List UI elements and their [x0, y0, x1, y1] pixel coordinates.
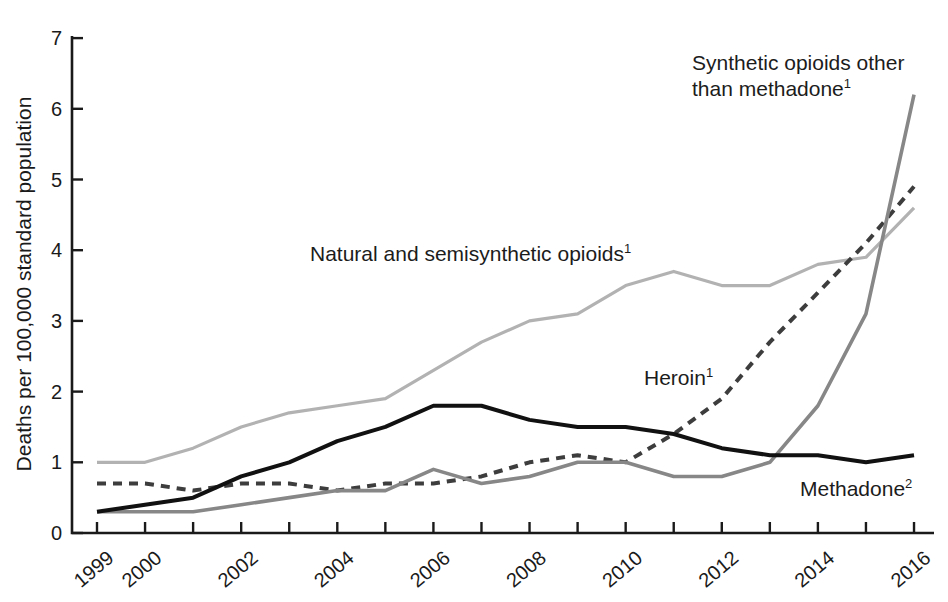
y-tick-label: 5	[51, 169, 62, 191]
y-tick-label: 6	[51, 98, 62, 120]
footnote-marker: 1	[706, 365, 713, 380]
x-tick-label: 2010	[598, 546, 646, 591]
footnote-marker: 1	[624, 241, 631, 256]
axes	[72, 36, 934, 533]
x-tick-label: 2014	[790, 546, 838, 591]
series-label-text: Heroin	[644, 366, 706, 389]
series-line-synthetic-opioids-other-than-methadone	[97, 95, 914, 512]
x-tick-label: 2006	[406, 546, 454, 591]
y-tick-label: 4	[51, 239, 62, 261]
x-tick-label: 2012	[694, 546, 742, 591]
y-axis-title: Deaths per 100,000 standard population	[12, 97, 36, 472]
series-line-methadone	[97, 406, 914, 512]
series-label-text: Synthetic opioids other than methadone	[692, 51, 904, 100]
x-tick-label: 1999	[69, 546, 117, 591]
series-label-heroin: Heroin1	[644, 365, 713, 391]
footnote-marker: 2	[905, 476, 912, 491]
series-label-natural-semisynthetic: Natural and semisynthetic opioids1	[310, 241, 631, 267]
x-tick-label: 2008	[502, 546, 550, 591]
y-tick-label: 3	[51, 310, 62, 332]
y-tick-label: 7	[51, 27, 62, 49]
x-tick-label: 2004	[310, 546, 358, 591]
series-label-text: Natural and semisynthetic opioids	[310, 242, 624, 265]
x-tick-label: 2016	[886, 546, 934, 591]
series-line-heroin	[97, 187, 914, 491]
x-tick-label: 2002	[214, 546, 262, 591]
series-label-synthetic-opioids: Synthetic opioids other than methadone1	[692, 50, 940, 102]
footnote-marker: 1	[844, 76, 851, 91]
x-tick-label: 2000	[117, 546, 165, 591]
opioid-death-rate-figure: 0123456719992000200220042006200820102012…	[0, 0, 948, 602]
y-tick-label: 1	[51, 451, 62, 473]
y-tick-label: 0	[51, 522, 62, 544]
series-label-text: Methadone	[800, 477, 905, 500]
series-label-methadone: Methadone2	[800, 476, 912, 502]
y-tick-label: 2	[51, 381, 62, 403]
